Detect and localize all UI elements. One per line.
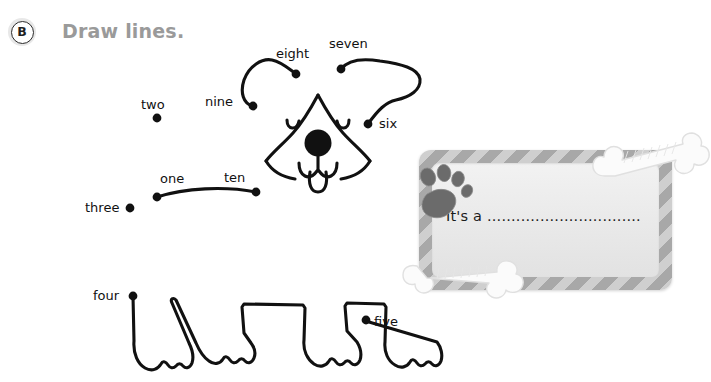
dot-label-five: five [374, 314, 398, 329]
dot-three[interactable] [126, 204, 135, 213]
answer-prompt-text[interactable]: It's a ................................ [446, 208, 641, 224]
dot-label-three: three [85, 200, 119, 215]
dog-ear-left [242, 60, 296, 106]
dot-label-one: one [160, 171, 184, 186]
dot-label-four: four [93, 288, 120, 303]
dot-label-eight: eight [276, 46, 309, 61]
dot-six[interactable] [364, 120, 373, 129]
dot-two[interactable] [153, 114, 162, 123]
dog-nose [305, 130, 332, 157]
dog-mouth [299, 156, 337, 192]
dot-ten[interactable] [252, 188, 261, 197]
dot-eight[interactable] [292, 70, 301, 79]
dog-ear-right [341, 60, 420, 124]
puzzle-dot-labels: one two three four five six seven eight … [85, 36, 398, 329]
dog-eye-right [337, 120, 349, 128]
dot-one[interactable] [153, 193, 162, 202]
dot-label-nine: nine [205, 94, 233, 109]
dot-seven[interactable] [337, 65, 346, 74]
dot-label-six: six [379, 116, 397, 131]
dot-label-seven: seven [329, 36, 368, 51]
dot-label-two: two [141, 97, 165, 112]
dot-five[interactable] [362, 316, 371, 325]
dot-four[interactable] [129, 292, 138, 301]
answer-card: It's a ................................ [419, 150, 672, 290]
dog-eye-left [287, 120, 299, 128]
dog-body-legs [133, 296, 442, 370]
dog-eyes [287, 120, 349, 128]
dog-back-line [157, 189, 256, 197]
dot-label-ten: ten [224, 170, 245, 185]
dot-nine[interactable] [249, 102, 258, 111]
